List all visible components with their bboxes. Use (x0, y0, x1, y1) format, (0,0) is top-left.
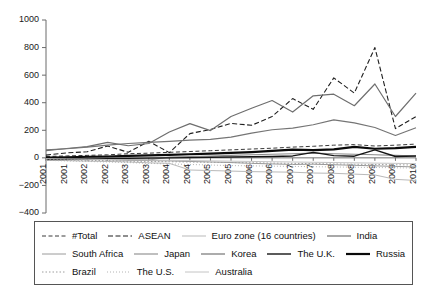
series-line-india (46, 84, 416, 151)
x-axis-tick-label: 2001 (59, 164, 69, 184)
legend-label: South Africa (72, 249, 123, 259)
legend-swatch-icon (41, 267, 67, 277)
legend-row-2: South AfricaJapanKoreaThe U.K.Russia (41, 245, 406, 263)
x-axis-tick-label: 2009 (367, 164, 377, 184)
y-axis-tick-label: 0 (34, 152, 39, 162)
y-axis-tick-label: −200 (19, 180, 39, 190)
x-axis-tick-label: 2003 (120, 164, 130, 184)
x-axis-tick-label: 2003 (141, 164, 151, 184)
legend-item[interactable]: South Africa (41, 249, 123, 259)
legend-swatch-icon (266, 249, 292, 259)
x-axis-tick-label: 2005 (223, 164, 233, 184)
legend-label: The U.K. (297, 249, 335, 259)
legend-swatch-icon (107, 231, 133, 241)
legend-row-3: BrazilThe U.S.Australia (41, 263, 406, 281)
x-axis-tick-label: 2004 (182, 164, 192, 184)
legend-label: India (357, 231, 378, 241)
legend-label: Russia (376, 249, 405, 259)
legend-swatch-icon (184, 267, 210, 277)
legend-swatch-icon (133, 249, 159, 259)
legend-label: Euro zone (16 countries) (212, 231, 316, 241)
line-chart: 10008006004002000−200−400 20012001200220… (0, 0, 447, 298)
x-axis-tick-label: 2002 (100, 164, 110, 184)
legend-item[interactable]: Australia (184, 267, 252, 277)
x-axis-tick-label: 2005 (202, 164, 212, 184)
legend-label: #Total (72, 231, 97, 241)
legend-label: Australia (215, 267, 252, 277)
legend-item[interactable]: Brazil (41, 267, 96, 277)
legend-label: Japan (164, 249, 190, 259)
y-axis-tick-label: 800 (24, 42, 39, 52)
legend-swatch-icon (345, 249, 371, 259)
series-line-russia (46, 147, 416, 158)
legend-item[interactable]: The U.K. (266, 249, 335, 259)
legend-swatch-icon (41, 231, 67, 241)
y-axis-tick-label: 1000 (19, 14, 39, 24)
legend-swatch-icon (181, 231, 207, 241)
legend-item[interactable]: Russia (345, 249, 405, 259)
legend-label: The U.S. (137, 267, 175, 277)
x-axis-tick-label: 2006 (244, 164, 254, 184)
legend-item[interactable]: Euro zone (16 countries) (181, 231, 316, 241)
legend-item[interactable]: The U.S. (106, 267, 175, 277)
legend-swatch-icon (326, 231, 352, 241)
y-axis-tick-label: 200 (24, 125, 39, 135)
x-axis-tick-label: 2001 (38, 164, 48, 184)
legend-swatch-icon (41, 249, 67, 259)
legend-item[interactable]: ASEAN (107, 231, 170, 241)
x-axis-tick-label: 2007 (285, 164, 295, 184)
legend-swatch-icon (200, 249, 226, 259)
legend-row-1: #TotalASEANEuro zone (16 countries)India (41, 227, 406, 245)
x-axis-tick-label: 2002 (79, 164, 89, 184)
y-axis-tick-label: 400 (24, 97, 39, 107)
legend-item[interactable]: Korea (200, 249, 256, 259)
legend-swatch-icon (106, 267, 132, 277)
y-axis-tick-label: −400 (19, 207, 39, 217)
x-axis-tick-label: 2006 (264, 164, 274, 184)
legend-item[interactable]: Japan (133, 249, 190, 259)
legend-label: ASEAN (138, 231, 170, 241)
chart-legend: #TotalASEANEuro zone (16 countries)India… (34, 221, 413, 285)
series-line-asean (46, 48, 416, 156)
x-axis-tick-label: 2004 (161, 164, 171, 184)
legend-item[interactable]: India (326, 231, 378, 241)
y-axis-tick-label: 600 (24, 70, 39, 80)
legend-label: Korea (231, 249, 256, 259)
legend-label: Brazil (72, 267, 96, 277)
y-axis: 10008006004002000−200−400 (19, 14, 416, 217)
legend-item[interactable]: #Total (41, 231, 97, 241)
